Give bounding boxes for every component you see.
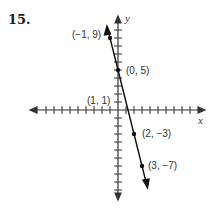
x-axis-left-arrow-icon	[30, 107, 37, 113]
point-label-2-neg3: (2, −3)	[142, 128, 171, 139]
point-label-3-neg7: (3, −7)	[148, 160, 177, 171]
line-bottom-arrow-icon	[143, 179, 149, 188]
y-axis-label: y	[124, 12, 130, 24]
y-axis-down-arrow-icon	[115, 193, 121, 200]
point-label-1-1: (1, 1)	[87, 95, 110, 106]
point-label-neg1-9: (−1, 9)	[72, 29, 101, 40]
coordinate-plane: y x (−1, 9) (0, 5) (1, 1) (2, −3) (3, −7…	[0, 0, 217, 208]
line-top-arrow-icon	[105, 26, 111, 35]
x-axis-label: x	[197, 114, 203, 126]
point-label-0-5: (0, 5)	[126, 65, 149, 76]
y-axis-up-arrow-icon	[115, 16, 121, 23]
x-axis-right-arrow-icon	[198, 107, 205, 113]
